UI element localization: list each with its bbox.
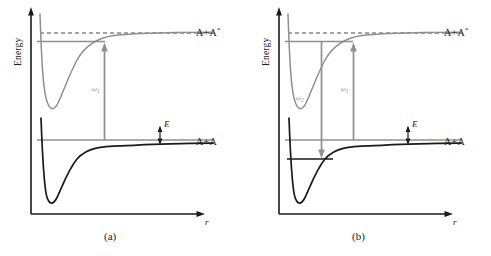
x-axis-label-a: r bbox=[205, 218, 209, 227]
energy-gap-arrow bbox=[406, 126, 411, 146]
omega-1-transition-arrow bbox=[350, 43, 357, 141]
state-label-upper-b-star: * bbox=[465, 26, 469, 34]
panel-caption-b: (b) bbox=[352, 231, 365, 242]
omega-2-transition-arrow bbox=[318, 42, 325, 159]
state-label-upper-b-text: A+A bbox=[444, 27, 465, 38]
y-axis-label-b: Energy bbox=[262, 38, 272, 66]
omega-1-label-a: ω1 bbox=[92, 86, 100, 93]
x-axis bbox=[31, 211, 205, 217]
y-axis bbox=[28, 7, 34, 214]
excited-state-potential-curve bbox=[288, 14, 461, 109]
omega-2-label-b-sub: 2 bbox=[301, 97, 304, 103]
panel-a: Energy r A+A* A+A E ω1 (a) bbox=[0, 0, 246, 256]
state-label-upper-b: A+A* bbox=[444, 27, 469, 38]
panel-a-plot bbox=[0, 0, 246, 256]
panel-caption-a: (a) bbox=[104, 231, 116, 242]
omega-1-label-b-sub: 1 bbox=[346, 88, 349, 94]
omega-1-transition-arrow bbox=[101, 43, 108, 141]
x-axis-label-b: r bbox=[453, 218, 457, 227]
ground-state-potential-curve bbox=[289, 118, 461, 203]
excited-state-potential-curve bbox=[40, 14, 213, 109]
omega-1-label-b: ω1 bbox=[341, 86, 349, 93]
state-label-lower-b: A+A bbox=[444, 137, 465, 147]
state-label-upper-a-text: A+A bbox=[196, 27, 217, 38]
energy-gap-label-a: E bbox=[164, 120, 170, 129]
state-label-upper-a-star: * bbox=[217, 26, 221, 34]
y-axis bbox=[276, 7, 282, 214]
panel-b: Energy r A+A* A+A E ω2 ω1 (b) bbox=[245, 0, 491, 256]
y-axis-label-a: Energy bbox=[14, 38, 24, 66]
omega-2-label-b: ω2 bbox=[296, 95, 304, 102]
ground-state-potential-curve bbox=[41, 118, 213, 203]
state-label-upper-a: A+A* bbox=[196, 27, 221, 38]
omega-1-label-a-sub: 1 bbox=[97, 88, 100, 94]
state-label-lower-a: A+A bbox=[196, 137, 217, 147]
energy-gap-label-b: E bbox=[412, 120, 418, 129]
figure-container: Energy r A+A* A+A E ω1 (a) bbox=[0, 0, 491, 256]
x-axis bbox=[279, 211, 453, 217]
energy-gap-arrow bbox=[158, 126, 163, 146]
